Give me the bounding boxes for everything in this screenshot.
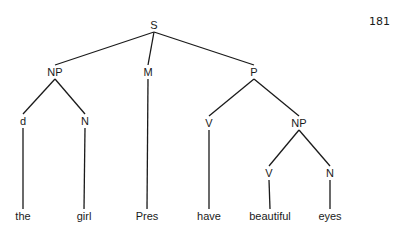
edge-m-pres (147, 79, 148, 209)
edge-p-v1 (209, 79, 254, 116)
node-n2: N (326, 167, 334, 179)
node-m: M (143, 66, 152, 78)
edge-np1-n1 (55, 79, 85, 114)
node-np2: NP (291, 117, 306, 129)
node-np1: NP (47, 66, 62, 78)
node-v1: V (205, 117, 212, 129)
edge-np2-n2 (299, 130, 330, 166)
edge-np2-v2 (269, 130, 299, 166)
edge-n1-girl (84, 128, 85, 209)
tree-edges (0, 0, 399, 236)
edge-s-np1 (55, 32, 154, 65)
node-d: d (20, 115, 26, 127)
node-girl: girl (77, 210, 92, 222)
edge-np1-d (23, 79, 55, 114)
edge-s-m (148, 32, 154, 65)
edge-s-p (154, 32, 254, 65)
node-s: S (150, 19, 157, 31)
node-have: have (197, 210, 221, 222)
node-pres: Pres (136, 210, 159, 222)
node-eyes: eyes (318, 210, 341, 222)
node-v2: V (265, 167, 272, 179)
edge-p-np2 (254, 79, 299, 116)
edge-v2-beautiful (269, 180, 270, 209)
node-the: the (15, 210, 30, 222)
node-beautiful: beautiful (249, 210, 291, 222)
node-n1: N (81, 115, 89, 127)
node-p: P (250, 66, 257, 78)
